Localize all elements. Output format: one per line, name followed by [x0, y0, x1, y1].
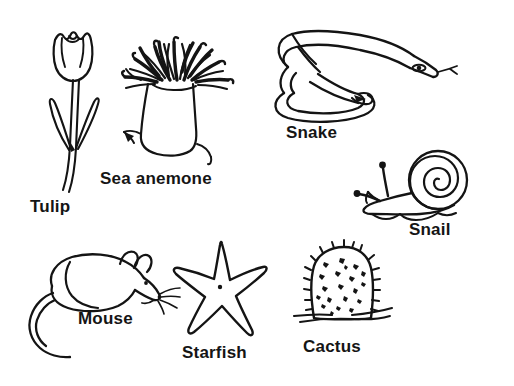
label-cactus: Cactus	[303, 338, 361, 355]
starfish-icon	[170, 240, 275, 340]
label-snake: Snake	[286, 124, 337, 141]
figure-cactus	[292, 240, 402, 335]
sea-anemone-icon	[112, 22, 242, 167]
snail-icon	[350, 148, 490, 228]
figure-mouse	[22, 238, 182, 363]
mouse-icon	[22, 238, 182, 363]
label-snail: Snail	[409, 221, 451, 238]
figure-starfish	[170, 240, 275, 340]
illustration-sheet: Tulip	[0, 0, 514, 386]
figure-snake	[258, 25, 458, 125]
label-sea-anemone: Sea anemone	[100, 170, 212, 187]
snake-icon	[258, 25, 458, 125]
figure-sea-anemone	[112, 22, 242, 167]
figure-snail	[350, 148, 490, 228]
label-tulip: Tulip	[30, 198, 70, 215]
label-starfish: Starfish	[182, 344, 247, 361]
cactus-icon	[292, 240, 402, 335]
label-mouse: Mouse	[78, 310, 133, 327]
